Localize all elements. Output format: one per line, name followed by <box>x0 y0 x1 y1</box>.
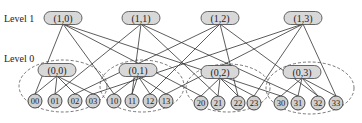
node-label: (1,3) <box>293 13 312 25</box>
node-label: (1,0) <box>53 13 72 25</box>
edge <box>302 78 318 96</box>
edge <box>218 78 220 96</box>
leaf-node: 23 <box>247 96 261 110</box>
leaf-node: 13 <box>159 94 173 108</box>
leaf-label: 10 <box>110 96 119 106</box>
edge <box>138 76 150 94</box>
leaf-node: 21 <box>211 96 225 110</box>
level1-node: (1,0) <box>44 12 82 25</box>
level0-node: (0,3) <box>283 66 321 79</box>
leaf-node: 11 <box>125 94 139 108</box>
edge <box>57 76 75 94</box>
leaf-node: 12 <box>143 94 157 108</box>
level1-node: (1,2) <box>201 12 239 25</box>
node-label: (0,3) <box>292 67 311 79</box>
edge <box>132 24 141 94</box>
leaf-node: 31 <box>291 96 305 110</box>
level-labels: Level 1Level 0 <box>4 13 34 64</box>
edge <box>63 24 201 96</box>
leaf-label: 22 <box>234 98 243 108</box>
level1-node: (1,3) <box>284 12 322 25</box>
node-label: (1,1) <box>131 13 150 25</box>
leaf-node: 01 <box>48 94 62 108</box>
leaf-label: 20 <box>197 98 206 108</box>
level0-node: (0,0) <box>38 64 76 77</box>
edge <box>55 76 57 94</box>
leaf-node: 02 <box>68 94 82 108</box>
leaf-node: 32 <box>311 96 325 110</box>
leaf-label: 02 <box>71 96 80 106</box>
level0-node: (0,1) <box>119 64 157 77</box>
leaf-node: 22 <box>231 96 245 110</box>
leaf-node: 00 <box>28 94 42 108</box>
leaf-label: 21 <box>214 98 223 108</box>
node-label: (0,1) <box>128 65 147 77</box>
leaf-node: 30 <box>274 96 288 110</box>
leaf-label: 11 <box>128 96 136 106</box>
leaf-label: 32 <box>314 98 323 108</box>
edge <box>150 24 220 94</box>
edge <box>35 24 63 94</box>
leaf-node: 10 <box>107 94 121 108</box>
edge <box>254 24 303 96</box>
leaf-label: 23 <box>250 98 259 108</box>
leaf-node: 03 <box>86 94 100 108</box>
edge <box>63 24 114 94</box>
edge <box>63 24 281 96</box>
edge <box>114 76 138 94</box>
leaf-label: 13 <box>162 96 171 106</box>
leaf-node: 20 <box>194 96 208 110</box>
leaf-label: 12 <box>146 96 155 106</box>
leaf-label: 01 <box>51 96 60 106</box>
edge <box>57 76 93 94</box>
leaf-node: 33 <box>329 96 343 110</box>
diagram-canvas: Level 1Level 0 (1,0)(1,1)(1,2)(1,3)(0,0)… <box>0 0 362 123</box>
leaf-label: 31 <box>294 98 303 108</box>
edge <box>138 76 166 94</box>
edge <box>201 78 220 96</box>
hierarchical-network-diagram: Level 1Level 0 (1,0)(1,1)(1,2)(1,3)(0,0)… <box>0 0 362 123</box>
edge <box>302 78 336 96</box>
level-label-level1: Level 1 <box>4 13 34 24</box>
node-label: (0,2) <box>210 67 229 79</box>
leaf-label: 00 <box>31 96 40 106</box>
leaf-label: 30 <box>277 98 286 108</box>
level-label-level0: Level 0 <box>4 53 34 64</box>
edges <box>35 24 336 96</box>
leaf-label: 03 <box>89 96 98 106</box>
level1-node: (1,1) <box>122 12 160 25</box>
leaf-label: 33 <box>332 98 341 108</box>
edge <box>220 24 318 96</box>
level0-node: (0,2) <box>201 66 239 79</box>
node-label: (0,0) <box>47 65 66 77</box>
node-label: (1,2) <box>210 13 229 25</box>
